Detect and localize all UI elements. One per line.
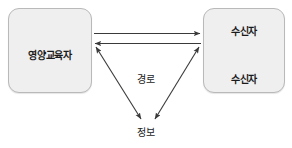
label-channel: 경로 [0,71,292,86]
node-educator-label: 영양교육자 [9,47,91,62]
diagram-canvas: 영양교육자 수신자 수신자 경로 정보 [0,0,292,148]
label-information: 정보 [0,124,292,139]
node-receiver-top-label: 수신자 [204,23,284,38]
